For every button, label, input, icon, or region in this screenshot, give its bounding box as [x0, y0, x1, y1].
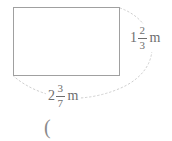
height-dimension-label: 1 2 3 m: [128, 24, 162, 52]
width-fraction-denominator: 7: [58, 97, 64, 110]
diagram-svg: [0, 0, 172, 141]
height-unit-label: m: [150, 31, 161, 45]
width-dimension-label: 2 3 7 m: [46, 82, 80, 110]
height-fraction-numerator: 2: [138, 25, 147, 39]
width-fraction: 3 7: [56, 83, 65, 109]
rectangle: [14, 8, 120, 76]
figure-canvas: 1 2 3 m 2 3 7 m (: [0, 0, 172, 141]
answer-parenthesis: (: [44, 115, 51, 139]
height-fraction: 2 3: [138, 25, 147, 51]
height-fraction-denominator: 3: [140, 39, 146, 52]
height-whole-number: 1: [130, 31, 137, 45]
width-fraction-numerator: 3: [56, 83, 65, 97]
width-unit-label: m: [68, 89, 79, 103]
width-whole-number: 2: [48, 89, 55, 103]
